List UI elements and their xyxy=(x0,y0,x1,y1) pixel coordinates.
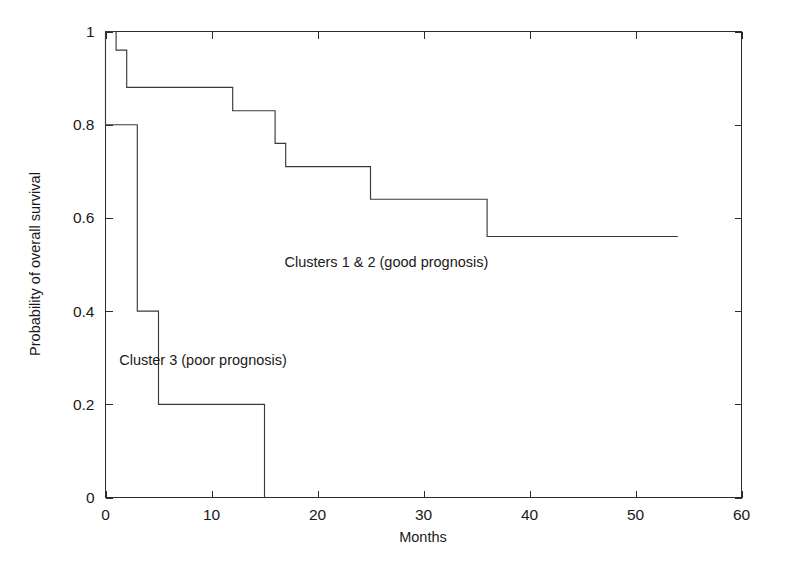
figure-background xyxy=(0,0,787,565)
y-tick-label-0.8: 0.8 xyxy=(73,116,95,133)
series-annotation-2: Cluster 3 (poor prognosis) xyxy=(119,352,287,368)
survival-chart-figure: 0102030405060 00.20.40.60.81 Clusters 1 … xyxy=(0,0,787,565)
series-annotation-1: Clusters 1 & 2 (good prognosis) xyxy=(284,254,488,270)
x-tick-label-10: 10 xyxy=(203,506,221,523)
y-tick-label-0.6: 0.6 xyxy=(73,209,95,226)
y-tick-label-1: 1 xyxy=(86,23,95,40)
y-tick-label-0.4: 0.4 xyxy=(73,303,95,320)
x-tick-label-20: 20 xyxy=(309,506,327,523)
x-tick-label-50: 50 xyxy=(627,506,645,523)
y-axis-title: Probability of overall survival xyxy=(27,172,43,356)
x-tick-label-30: 30 xyxy=(415,506,433,523)
y-tick-label-0: 0 xyxy=(86,489,95,506)
x-axis-title: Months xyxy=(399,529,447,545)
x-tick-label-40: 40 xyxy=(521,506,539,523)
kaplan-meier-plot: 0102030405060 00.20.40.60.81 Clusters 1 … xyxy=(0,0,787,565)
y-tick-label-0.2: 0.2 xyxy=(73,396,95,413)
x-tick-label-60: 60 xyxy=(733,506,751,523)
x-tick-label-0: 0 xyxy=(101,506,110,523)
